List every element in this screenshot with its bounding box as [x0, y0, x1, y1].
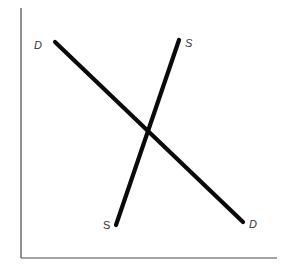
supply-label-bottom: S: [103, 220, 110, 231]
supply-curve: [116, 40, 179, 225]
demand-label-bottom: D: [249, 219, 257, 230]
supply-label-top: S: [185, 38, 192, 49]
supply-demand-diagram: [0, 0, 289, 270]
demand-label-top: D: [34, 40, 42, 51]
